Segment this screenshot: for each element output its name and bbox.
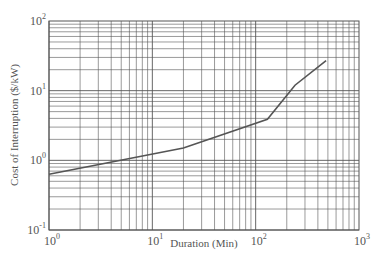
x-tick-label: 100 xyxy=(44,232,60,248)
data-line xyxy=(49,61,326,175)
y-tick-label: 102 xyxy=(30,12,46,28)
plot-frame xyxy=(49,21,359,230)
y-tick-label: 100 xyxy=(30,151,46,167)
y-axis-ticks: 10-1100101102 xyxy=(27,12,46,237)
x-axis-label: Duration (Min) xyxy=(170,237,238,250)
chart: 100101102103 10-1100101102 Duration (Min… xyxy=(0,0,376,273)
y-tick-label: 101 xyxy=(30,82,46,98)
x-tick-label: 103 xyxy=(354,232,370,248)
grid-lines xyxy=(49,21,359,230)
y-axis-label: Cost of Interruption ($/kW) xyxy=(8,64,21,186)
x-tick-label: 101 xyxy=(147,232,163,248)
x-tick-label: 102 xyxy=(251,232,267,248)
